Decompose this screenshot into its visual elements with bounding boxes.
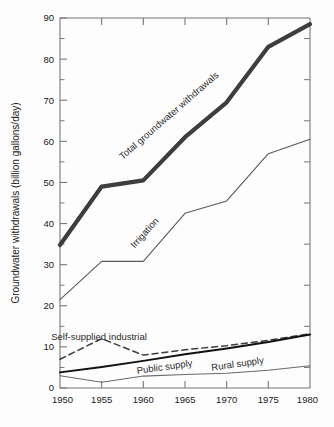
series-label-total-groundwater-withdrawals: Total groundwater withdrawals bbox=[117, 69, 221, 161]
series-label-self-supplied-industrial: Self-supplied industrial bbox=[51, 331, 147, 342]
x-tick-label: 1950 bbox=[52, 394, 73, 405]
series-line-total-groundwater-withdrawals bbox=[60, 24, 310, 245]
series-inline-labels: Total groundwater withdrawalsIrrigationS… bbox=[51, 69, 264, 376]
x-tick-label: 1980 bbox=[297, 394, 318, 405]
y-tick-label: 60 bbox=[43, 136, 54, 147]
line-chart-svg: 0102030405060708090 19501955196019651970… bbox=[0, 0, 334, 427]
y-tick-label: 10 bbox=[43, 341, 54, 352]
y-tick-label: 20 bbox=[43, 300, 54, 311]
y-tick-label: 40 bbox=[43, 218, 54, 229]
series-line-irrigation bbox=[60, 139, 310, 299]
chart-container: 0102030405060708090 19501955196019651970… bbox=[0, 0, 334, 427]
x-tick-label: 1975 bbox=[258, 394, 279, 405]
x-tick-label: 1955 bbox=[91, 394, 112, 405]
x-axis-tick-labels: 1950195519601965197019751980 bbox=[52, 394, 318, 405]
series-label-rural-supply: Rural supply bbox=[211, 354, 265, 372]
y-tick-label: 0 bbox=[49, 382, 54, 393]
y-tick-label: 70 bbox=[43, 95, 54, 106]
y-tick-label: 80 bbox=[43, 54, 54, 65]
y-tick-label: 30 bbox=[43, 259, 54, 270]
y-tick-label: 90 bbox=[43, 12, 54, 23]
y-tick-label: 50 bbox=[43, 177, 54, 188]
x-tick-label: 1960 bbox=[133, 394, 154, 405]
series-label-irrigation: Irrigation bbox=[128, 215, 161, 250]
x-tick-label: 1965 bbox=[174, 394, 195, 405]
data-series-group bbox=[60, 24, 310, 382]
x-tick-label: 1970 bbox=[216, 394, 237, 405]
y-axis-title: Groundwater withdrawals (billion gallons… bbox=[10, 102, 21, 303]
